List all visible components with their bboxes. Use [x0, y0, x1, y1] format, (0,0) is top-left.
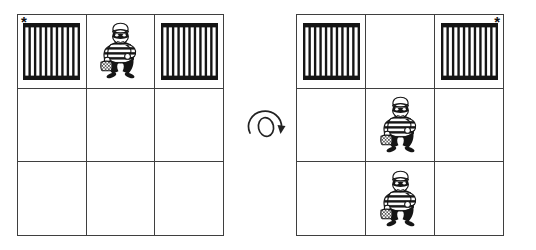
cell-r0c1-burglar [87, 15, 155, 88]
burglar-icon [94, 20, 147, 82]
rotation-puzzle-figure: { "figure": { "background_color": "#ffff… [0, 0, 536, 250]
jail-bars-icon [303, 23, 360, 80]
cell-r2c0-empty [297, 162, 365, 235]
cell-r1c1-empty [87, 89, 155, 162]
cell-r1c0-empty [18, 89, 86, 162]
grid-after: * [296, 14, 504, 236]
burglar-icon [374, 94, 427, 156]
cell-r1c2-empty [155, 89, 223, 162]
asterisk-marker: * [21, 16, 27, 28]
cell-r1c1-burglar [366, 89, 434, 162]
grid-before: * [17, 14, 224, 236]
cell-r1c2-empty [435, 89, 503, 162]
cell-r0c2-jail-bars [155, 15, 223, 88]
cell-r0c0-jail-bars [297, 15, 365, 88]
jail-bars-icon [441, 23, 498, 80]
cell-r2c0-empty [18, 162, 86, 235]
cell-r2c1-burglar [366, 162, 434, 235]
jail-bars-icon [161, 23, 218, 80]
jail-bars-icon [23, 23, 80, 80]
cell-r0c2-jail-bars: * [435, 15, 503, 88]
cell-r0c1-empty [366, 15, 434, 88]
cell-r2c1-empty [87, 162, 155, 235]
burglar-icon [374, 168, 427, 230]
cell-r2c2-empty [155, 162, 223, 235]
rotate-clockwise-glyph [245, 103, 289, 145]
asterisk-marker: * [494, 16, 500, 28]
cell-r2c2-empty [435, 162, 503, 235]
cell-r1c0-empty [297, 89, 365, 162]
rotate-clockwise-icon [245, 103, 289, 145]
cell-r0c0-jail-bars: * [18, 15, 86, 88]
